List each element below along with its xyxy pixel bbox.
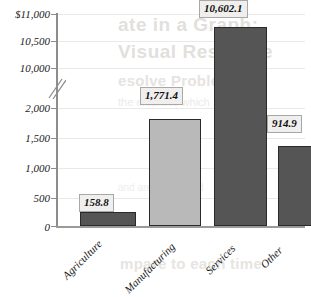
y-tick-label-11000: $11,000: [15, 9, 50, 20]
y-tick-label-10000: 10,000: [20, 63, 50, 74]
value-label-manufacturing: 1,771.4: [140, 87, 183, 105]
value-label-agriculture: 158.8: [79, 194, 114, 212]
x-category-label-other: Other: [258, 244, 285, 271]
bar-chart: ate in a Graph: Visual Resource esolve P…: [0, 0, 311, 297]
axis-break-icon: [48, 76, 66, 102]
y-axis-line: [56, 13, 58, 228]
y-tick-label-1500: 1,500: [25, 133, 50, 144]
bar-agriculture[interactable]: [80, 212, 136, 226]
bar-services[interactable]: [214, 27, 267, 226]
y-tick-label-10500: 10,500: [20, 36, 50, 47]
y-tick-label-2000: 2,000: [25, 103, 50, 114]
x-category-label-manufacturing: Manufacturing: [122, 240, 177, 295]
bar-manufacturing[interactable]: [149, 119, 201, 226]
value-label-other: 914.9: [267, 115, 302, 133]
gridline-10500: [58, 41, 305, 42]
y-tick-label-1000: 1,000: [25, 163, 50, 174]
y-tick-label-0: 0: [45, 222, 51, 233]
value-label-services: 10,602.1: [199, 0, 248, 18]
y-tick-label-500: 500: [34, 193, 51, 204]
bar-other[interactable]: [278, 146, 311, 226]
gridline-10000: [58, 68, 305, 69]
x-axis-line: [56, 226, 305, 228]
y-axis-labels: $11,000 10,500 10,000 2,000 1,500 1,000 …: [0, 13, 50, 228]
x-category-label-services: Services: [203, 242, 237, 276]
x-category-label-agriculture: Agriculture: [60, 237, 104, 281]
gridline-2000: [58, 108, 305, 109]
gridline-11000: [58, 14, 305, 15]
